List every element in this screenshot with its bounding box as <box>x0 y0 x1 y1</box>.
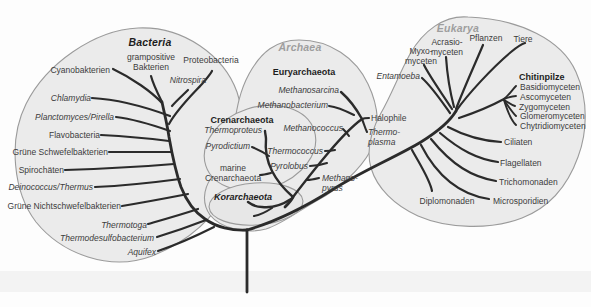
eukarya-blob <box>369 17 585 227</box>
domain-blobs <box>15 17 585 262</box>
phylogenetic-tree-graphic <box>0 0 591 307</box>
tree-of-life-figure: Bacteria Archaea Eukarya Cyanobakterien … <box>0 0 591 307</box>
background-band <box>0 271 591 292</box>
branch-thermococcus <box>325 150 335 151</box>
